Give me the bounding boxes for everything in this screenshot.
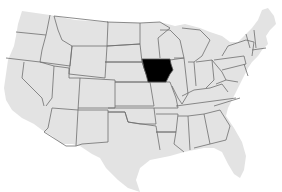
us-map (0, 0, 282, 192)
